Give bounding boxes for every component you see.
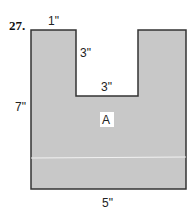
dim-notch-depth: 3" xyxy=(80,46,91,60)
problem-number: 27. xyxy=(9,18,25,33)
dim-top-left-width: 1" xyxy=(48,14,59,28)
dim-left-height: 7" xyxy=(15,100,26,114)
dim-notch-width: 3" xyxy=(101,80,112,94)
region-label: A xyxy=(102,113,110,127)
dim-bottom-width: 5" xyxy=(102,196,113,210)
u-shape xyxy=(31,30,186,189)
u-shape-diagram: 27. 1" 3" 3" 7" A 5" xyxy=(0,0,195,215)
